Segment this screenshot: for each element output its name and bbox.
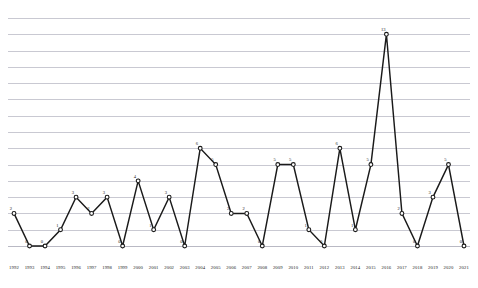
data-point-label: 5 <box>367 157 370 162</box>
data-point-marker <box>307 228 311 232</box>
data-point-label: 3 <box>103 190 106 195</box>
data-point-marker <box>214 163 218 167</box>
data-point-marker <box>152 228 156 232</box>
data-point-marker <box>369 163 373 167</box>
data-point-label: 2 <box>398 206 401 211</box>
data-point-marker <box>229 212 233 216</box>
data-point-label: 1 <box>56 223 59 228</box>
data-point-label: 13 <box>381 27 386 32</box>
data-point-label: 0 <box>320 239 323 244</box>
data-point-marker <box>12 212 16 216</box>
data-point-marker <box>322 244 326 248</box>
x-axis-tick-label: 2021 <box>454 265 474 270</box>
data-point-label: 2 <box>87 206 90 211</box>
data-point-marker <box>400 212 404 216</box>
data-point-label: 3 <box>429 190 432 195</box>
data-point-label: 5 <box>444 157 447 162</box>
line-chart: 2001323041306522055106151320350 19921993… <box>0 0 478 288</box>
data-point-marker <box>136 179 140 183</box>
data-point-marker <box>183 244 187 248</box>
data-point-marker <box>90 212 94 216</box>
data-point-marker <box>276 163 280 167</box>
data-point-label: 3 <box>72 190 75 195</box>
data-point-label: 6 <box>336 141 339 146</box>
data-point-marker <box>198 146 202 150</box>
data-point-marker <box>121 244 125 248</box>
data-point-marker <box>416 244 420 248</box>
data-point-marker <box>338 146 342 150</box>
data-point-label: 5 <box>273 157 276 162</box>
data-point-marker <box>167 195 171 199</box>
data-point-marker <box>74 195 78 199</box>
data-point-label: 6 <box>196 141 199 146</box>
data-point-marker <box>59 228 63 232</box>
series-line <box>14 34 464 246</box>
series-layer: 2001323041306522055106151320350 <box>0 0 478 262</box>
data-point-label: 0 <box>41 239 44 244</box>
data-point-label: 4 <box>134 174 137 179</box>
data-point-marker <box>105 195 109 199</box>
data-point-markers <box>12 32 466 248</box>
data-point-label: 3 <box>165 190 168 195</box>
data-point-marker <box>28 244 32 248</box>
data-point-label: 2 <box>242 206 245 211</box>
x-axis-labels: 1992199319941995199619971998199920002001… <box>0 262 478 288</box>
data-point-marker <box>291 163 295 167</box>
data-point-label: 5 <box>211 157 214 162</box>
data-point-marker <box>260 244 264 248</box>
data-point-marker <box>353 228 357 232</box>
data-point-marker <box>462 244 466 248</box>
series-svg: 2001323041306522055106151320350 <box>0 0 478 262</box>
data-point-marker <box>245 212 249 216</box>
data-point-marker <box>431 195 435 199</box>
data-point-label: 5 <box>289 157 292 162</box>
data-point-label: 2 <box>10 206 13 211</box>
data-point-marker <box>447 163 451 167</box>
plot-area: 2001323041306522055106151320350 <box>0 0 478 262</box>
data-point-marker <box>43 244 47 248</box>
data-point-marker <box>385 32 389 36</box>
